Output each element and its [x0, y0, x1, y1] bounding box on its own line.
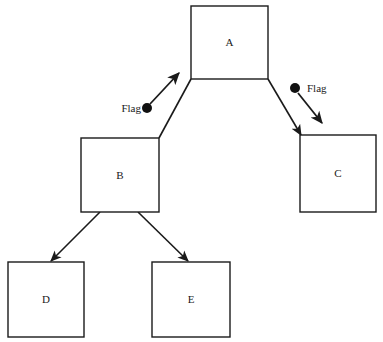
edge-b-e — [138, 212, 188, 261]
node-c-label: C — [334, 167, 341, 179]
nodes-layer: A B C D E — [8, 6, 376, 337]
flag-left-label: Flag — [121, 102, 141, 114]
node-e[interactable]: E — [152, 262, 230, 337]
edge-a-b — [159, 79, 191, 138]
flags-layer: Flag Flag — [121, 73, 327, 123]
node-c[interactable]: C — [300, 135, 376, 212]
node-e-label: E — [188, 293, 195, 305]
flag-right-arrow — [298, 93, 322, 123]
flag-left-arrow — [150, 73, 179, 104]
flag-left-dot-icon — [142, 103, 152, 113]
diagram-canvas: A B C D E Flag — [0, 0, 383, 342]
tree-diagram-svg: A B C D E Flag — [0, 0, 383, 342]
node-a-label: A — [226, 36, 234, 48]
flag-right-label: Flag — [307, 82, 327, 94]
flag-right-dot-icon — [290, 83, 300, 93]
node-d-label: D — [42, 293, 50, 305]
flag-annotation-left[interactable]: Flag — [121, 73, 179, 114]
node-b[interactable]: B — [81, 138, 159, 212]
flag-annotation-right[interactable]: Flag — [290, 82, 327, 123]
node-a[interactable]: A — [191, 6, 268, 79]
node-b-label: B — [116, 169, 123, 181]
node-d[interactable]: D — [8, 262, 84, 337]
edge-b-d — [51, 212, 100, 261]
